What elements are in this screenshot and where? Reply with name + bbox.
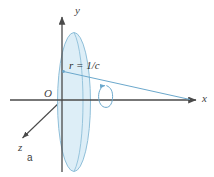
figure-panel: y x z O r = 1/c a [0,0,214,177]
radius-label: r = 1/c [69,59,100,71]
z-axis-label: z [17,141,23,153]
y-axis-label: y [74,4,80,16]
x-axis-label: x [201,92,207,104]
panel-caption: a [27,152,33,163]
diagram-canvas: y x z O r = 1/c a [0,0,214,177]
rotation-indicator [99,86,113,108]
origin-label: O [44,87,52,99]
z-axis [23,100,63,138]
